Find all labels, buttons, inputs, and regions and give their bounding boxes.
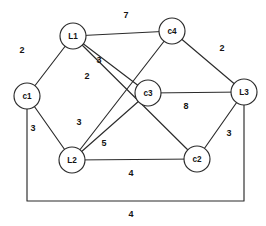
edge-weight-c4-l3: 2 [219, 44, 224, 53]
edge-l1-c4 [73, 31, 172, 36]
node-c4: c4 [159, 18, 185, 44]
edge-weight-c1-l2: 3 [30, 124, 35, 133]
node-c3: c3 [135, 80, 161, 106]
node-label-c3: c3 [143, 89, 153, 98]
node-label-L2: L2 [67, 156, 77, 165]
graph-figure: L1 c4 c1 c3 L3 L2 c2 7 2 3 2 2 3 8 [0, 0, 266, 226]
edge-weight-c2-l3: 3 [226, 129, 231, 138]
node-L1: L1 [60, 23, 86, 49]
edge-weight-c3-l2: 5 [101, 139, 106, 148]
edge-c1-l3-routed [27, 92, 244, 201]
edge-weight-c4-l2: 3 [76, 118, 81, 127]
node-label-c1: c1 [22, 92, 32, 101]
edge-weight-l2-c2: 4 [128, 169, 133, 178]
node-L3: L3 [231, 79, 257, 105]
edge-weight-l1-c3: 3 [96, 56, 101, 65]
node-label-c2: c2 [192, 155, 202, 164]
edge-c3-l3 [148, 92, 244, 93]
edge-l1-c3 [73, 36, 148, 93]
edge-weight-c1-l3: 4 [128, 210, 133, 219]
edge-weight-l1-c1: 2 [19, 46, 24, 55]
edge-l2-c2 [72, 159, 197, 160]
node-c2: c2 [184, 146, 210, 172]
edge-c3-l2 [72, 93, 148, 160]
node-c1: c1 [14, 83, 40, 109]
edge-weight-l1-c2: 2 [84, 72, 89, 81]
graph-canvas: L1 c4 c1 c3 L3 L2 c2 [0, 0, 266, 226]
edge-weight-l1-c4: 7 [123, 11, 128, 20]
edge-weight-c3-l3: 8 [183, 102, 188, 111]
edge-c4-l3 [172, 31, 244, 92]
node-L2: L2 [59, 147, 85, 173]
node-label-L3: L3 [239, 88, 249, 97]
node-label-L1: L1 [68, 32, 78, 41]
node-label-c4: c4 [167, 27, 177, 36]
edge-l1-c2 [73, 36, 197, 159]
